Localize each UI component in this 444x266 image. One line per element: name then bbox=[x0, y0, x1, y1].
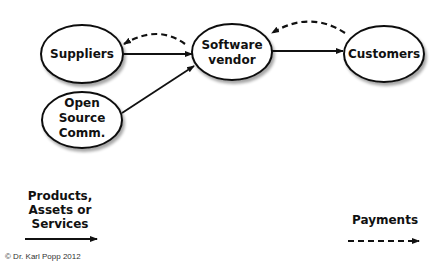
node-customers-label: Customers bbox=[348, 47, 420, 61]
legend-solid-line3: Services bbox=[20, 217, 100, 231]
node-customers: Customers bbox=[344, 26, 424, 82]
edge-opensource-to-vendor bbox=[122, 66, 194, 113]
node-vendor: Software vendor bbox=[192, 24, 272, 80]
legend-solid-label: Products, Assets or Services bbox=[20, 189, 100, 231]
node-suppliers: Suppliers bbox=[41, 25, 123, 83]
node-open-source: Open Source Comm. bbox=[42, 92, 122, 148]
node-open-source-line1: Open bbox=[64, 96, 99, 110]
legend-solid-line1: Products, bbox=[20, 189, 100, 203]
node-suppliers-label: Suppliers bbox=[50, 47, 114, 61]
edge-payment-customers-to-vendor bbox=[272, 22, 345, 34]
node-vendor-line1: Software bbox=[201, 38, 262, 52]
edge-payment-vendor-to-suppliers bbox=[124, 34, 185, 44]
node-vendor-line2: vendor bbox=[208, 53, 255, 67]
legend-dashed-label: Payments bbox=[345, 213, 425, 227]
legend-solid-line2: Assets or bbox=[20, 203, 100, 217]
node-open-source-line2: Source bbox=[59, 111, 106, 125]
copyright-text: © Dr. Karl Popp 2012 bbox=[5, 252, 81, 261]
node-open-source-line3: Comm. bbox=[59, 126, 106, 140]
